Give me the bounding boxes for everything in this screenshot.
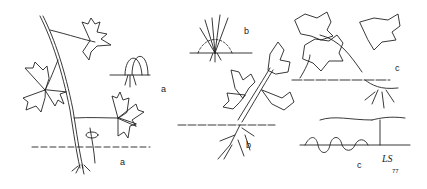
label-c-lower: c <box>357 160 362 170</box>
label-a-large: a <box>120 157 125 167</box>
plant-b-strawberry <box>178 15 294 159</box>
plant-a-detail <box>110 56 150 87</box>
artist-signature: LS <box>382 153 393 164</box>
label-b-large: b <box>246 140 251 150</box>
signature-year: 77 <box>392 168 399 174</box>
drawing <box>0 0 427 189</box>
label-a-small: a <box>161 84 166 94</box>
label-b-small: b <box>244 26 249 36</box>
plant-c-ivy <box>292 12 410 153</box>
plant-a-bramble <box>23 16 150 174</box>
botanical-illustration: a a b b c c LS 77 <box>0 0 427 189</box>
label-c-upper: c <box>395 63 400 73</box>
